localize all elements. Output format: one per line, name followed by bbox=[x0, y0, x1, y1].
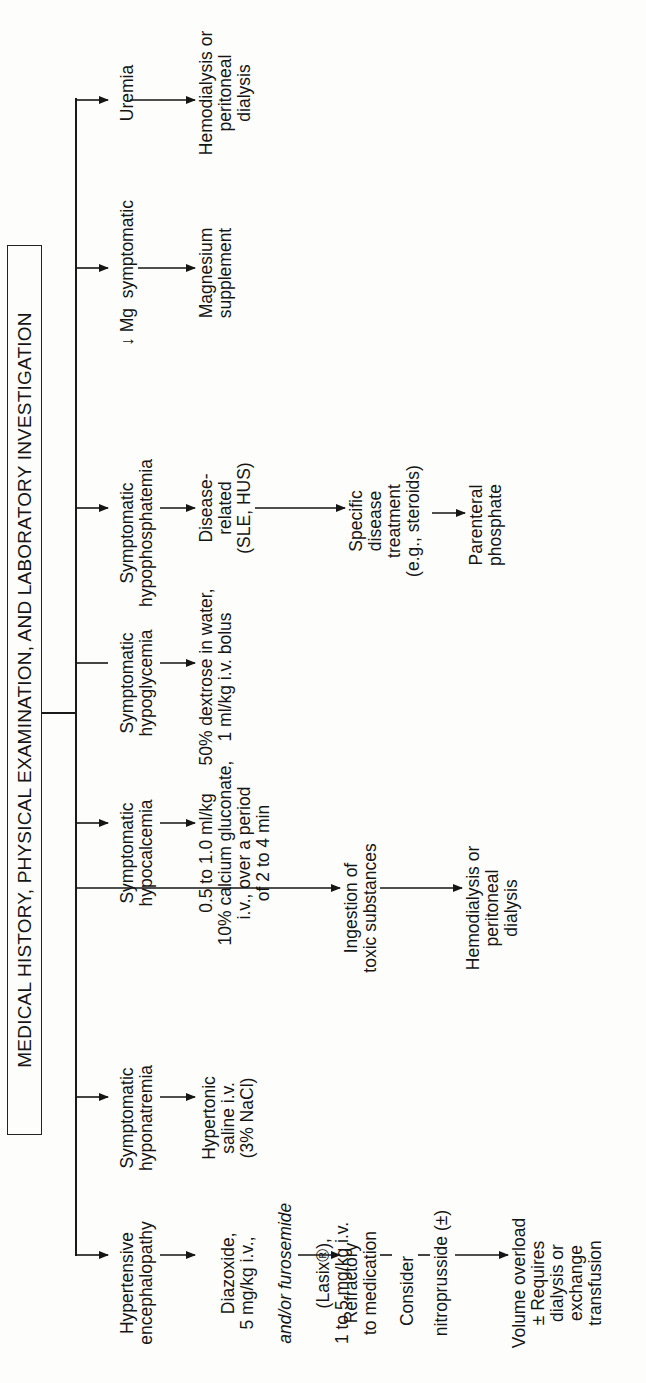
treatment-dextrose: 50% dextrose in water, 1 ml/kg i.v. bolu… bbox=[197, 588, 235, 765]
condition-hypoglycemia: Symptomatic hypoglycemia bbox=[118, 630, 156, 737]
step-refractory: Refractory to medication bbox=[342, 1231, 380, 1335]
condition-uremia: Uremia bbox=[118, 65, 137, 121]
step-consider: Consider bbox=[398, 1256, 417, 1326]
step-specific-treatment: Specific disease treatment (e.g., steroi… bbox=[347, 465, 423, 577]
treatment-calcium-gluconate: 0.5 to 1.0 ml/kg 10% calcium gluconate, … bbox=[197, 761, 273, 946]
treatment-uremia-dialysis: Hemodialysis or peritoneal dialysis bbox=[197, 31, 254, 155]
flowchart-page: MEDICAL HISTORY, PHYSICAL EXAMINATION, A… bbox=[0, 0, 646, 1383]
treatment-parenteral-phosphate: Parenteral phosphate bbox=[467, 484, 505, 566]
step-volume-overload: Volume overload ± Requires dialysis or e… bbox=[510, 1218, 605, 1348]
step-nitroprusside: nitroprusside (±) bbox=[432, 1210, 451, 1336]
connector-arrows bbox=[0, 0, 646, 1383]
treatment-furosemide-alt: and/or furosemide bbox=[275, 1203, 295, 1344]
condition-ingestion: Ingestion of toxic substances bbox=[342, 843, 380, 972]
condition-hypertensive: Hypertensive encephalopathy bbox=[118, 1221, 156, 1345]
treatment-hypertonic-saline: Hypertonic saline i.v. (3% NaCl) bbox=[200, 1076, 257, 1160]
condition-hyponatremia: Symptomatic hyponatremia bbox=[118, 1065, 156, 1171]
condition-hypophosphatemia: Symptomatic hypophosphatemia bbox=[118, 459, 156, 607]
treatment-magnesium-supplement: Magnesium supplement bbox=[197, 228, 235, 318]
treatment-diazoxide-dose: Diazoxide, 5 mg/kg i.v., bbox=[218, 1232, 257, 1329]
step-disease-related: Disease- related (SLE, HUS) bbox=[197, 462, 254, 553]
treatment-ingestion-dialysis: Hemodialysis or peritoneal dialysis bbox=[464, 846, 521, 970]
condition-magnesium: ↓ Mg symptomatic bbox=[118, 200, 137, 346]
condition-hypocalcemia: Symptomatic hypocalcemia bbox=[118, 800, 156, 907]
